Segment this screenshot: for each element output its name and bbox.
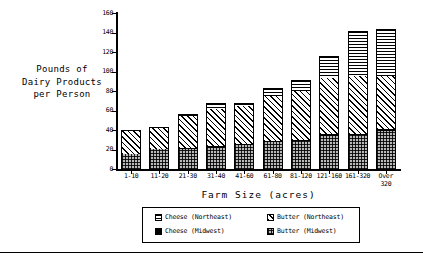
bar-segment-cheese-midwest: [376, 129, 396, 131]
bar-segment-cheese-northeast: [234, 103, 254, 106]
y-axis-tick-label: 120: [96, 49, 113, 56]
x-axis-tick: [301, 171, 302, 174]
legend-item: Cheese (Northeast): [155, 214, 232, 221]
bar-segment-cheese-midwest: [263, 141, 283, 142]
bar-segment-butter-northeast: [319, 78, 339, 134]
bar-segment-cheese-northeast: [263, 88, 283, 96]
legend-swatch-cheese-mw-icon: [155, 228, 162, 235]
bar-stack: [149, 127, 169, 169]
bar-segment-cheese-midwest: [178, 148, 198, 149]
bar-segment-butter-midwest: [319, 136, 339, 169]
bar-stack: [376, 29, 396, 169]
bar-segment-cheese-midwest: [348, 134, 368, 135]
bar-stack: [291, 80, 311, 169]
bar-segment-cheese-midwest: [234, 144, 254, 145]
horizontal-rule: [0, 252, 423, 253]
x-axis-tick: [273, 171, 274, 174]
bar-segment-cheese-northeast: [291, 80, 311, 91]
x-axis-tick: [329, 171, 330, 174]
bar-segment-butter-midwest: [234, 145, 254, 169]
bar-segment-butter-midwest: [149, 149, 169, 169]
bar-stack: [263, 88, 283, 169]
bar-stack: [319, 56, 339, 169]
legend-item: Butter (Northeast): [267, 214, 344, 221]
legend-item: Butter (Midwest): [267, 228, 336, 235]
y-axis-tick-label: 20: [96, 146, 113, 153]
chart-legend: Cheese (Northeast)Butter (Northeast)Chee…: [142, 207, 360, 243]
x-axis-tick: [159, 171, 160, 174]
x-axis-tick: [188, 171, 189, 174]
bar-segment-butter-northeast: [263, 96, 283, 141]
bar-segment-butter-midwest: [178, 149, 198, 169]
x-axis-tick: [358, 171, 359, 174]
legend-swatch-butter-mw-icon: [267, 228, 274, 235]
bar-stack: [348, 31, 368, 169]
bar-stack: [121, 130, 141, 169]
legend-swatch-butter-ne-icon: [267, 214, 274, 221]
bar-stack: [234, 103, 254, 169]
bar-segment-cheese-midwest: [319, 134, 339, 136]
y-axis-tick-label: 60: [96, 107, 113, 114]
bar-segment-cheese-northeast: [206, 103, 226, 109]
bar-segment-butter-northeast: [234, 106, 254, 144]
bar-segment-butter-midwest: [121, 154, 141, 169]
x-axis-tick: [244, 171, 245, 174]
bar-segment-cheese-midwest: [291, 140, 311, 141]
x-axis-tick: [131, 171, 132, 174]
bar-segment-cheese-northeast: [376, 29, 396, 77]
y-axis-tick-label: 100: [96, 68, 113, 75]
legend-label: Cheese (Midwest): [165, 228, 224, 235]
y-axis-tick-label: 80: [96, 88, 113, 95]
bar-segment-butter-northeast: [206, 109, 226, 146]
bar-segment-butter-midwest: [348, 135, 368, 169]
plot-area: [117, 13, 400, 169]
y-axis-tick-label: 40: [96, 127, 113, 134]
bar-segment-butter-northeast: [149, 127, 169, 148]
bar-segment-cheese-northeast: [319, 56, 339, 78]
bar-stack: [178, 114, 198, 169]
x-axis-tick: [386, 171, 387, 174]
bar-segment-cheese-northeast: [178, 114, 198, 116]
bar-segment-butter-northeast: [376, 76, 396, 129]
bar-segment-butter-midwest: [263, 142, 283, 169]
legend-swatch-cheese-ne-icon: [155, 214, 162, 221]
x-axis-tick: [216, 171, 217, 174]
bar-segment-butter-northeast: [291, 91, 311, 140]
legend-label: Butter (Midwest): [277, 228, 336, 235]
legend-item: Cheese (Midwest): [155, 228, 224, 235]
bar-segment-cheese-northeast: [348, 31, 368, 77]
bar-segment-butter-midwest: [206, 148, 226, 169]
chart-figure: Pounds of Dairy Products per Person 0204…: [0, 0, 423, 261]
bar-segment-butter-northeast: [178, 116, 198, 147]
y-axis-tick-label: 0: [96, 166, 113, 173]
y-axis-tick-label: 160: [96, 10, 113, 17]
y-axis-tick-label: 140: [96, 29, 113, 36]
x-axis-title: Farm Size (acres): [117, 189, 400, 200]
legend-label: Cheese (Northeast): [165, 214, 232, 221]
bar-stack: [206, 103, 226, 169]
bar-segment-butter-midwest: [376, 131, 396, 169]
legend-label: Butter (Northeast): [277, 214, 344, 221]
bar-segment-cheese-midwest: [206, 146, 226, 148]
x-axis-tick-label: Over 320: [364, 173, 408, 188]
bar-segment-butter-northeast: [121, 130, 141, 154]
bar-segment-butter-northeast: [348, 76, 368, 134]
bar-segment-butter-midwest: [291, 141, 311, 169]
